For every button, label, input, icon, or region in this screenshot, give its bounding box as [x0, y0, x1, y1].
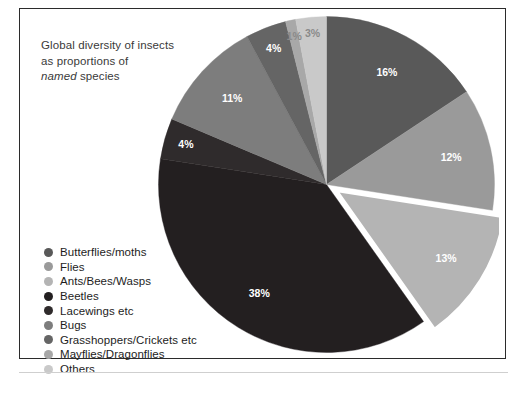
pie-slice-label: 4%: [178, 138, 194, 150]
legend-item-label: Beetles: [60, 290, 99, 302]
legend-item-label: Ants/Bees/Wasps: [60, 275, 151, 287]
pie-slice-label: 1%: [287, 30, 303, 42]
legend-item[interactable]: Beetles: [44, 289, 254, 304]
legend-swatch-icon: [44, 335, 53, 344]
pie-slice-label: 11%: [222, 92, 243, 104]
legend-swatch-icon: [44, 321, 53, 330]
legend-item[interactable]: Grasshoppers/Crickets etc: [44, 333, 254, 348]
legend-swatch-icon: [44, 350, 53, 359]
legend-item-label: Mayflies/Dragonflies: [60, 348, 165, 360]
legend-item[interactable]: Others: [44, 362, 254, 377]
pie-slice-label: 16%: [376, 66, 398, 78]
legend-item-label: Lacewings etc: [60, 305, 134, 317]
legend-swatch-icon: [44, 306, 53, 315]
pie-slice-label: 13%: [436, 252, 458, 264]
caption-line-3-rest: species: [77, 70, 120, 82]
legend-item[interactable]: Lacewings etc: [44, 303, 254, 318]
legend-item-label: Flies: [60, 261, 85, 273]
legend-item-label: Grasshoppers/Crickets etc: [60, 334, 197, 346]
legend-swatch-icon: [44, 292, 53, 301]
legend-swatch-icon: [44, 248, 53, 257]
legend-item[interactable]: Butterflies/moths: [44, 245, 254, 260]
pie-slice-label: 4%: [266, 42, 282, 54]
pie-slice-label: 3%: [305, 27, 321, 39]
legend-item[interactable]: Mayflies/Dragonflies: [44, 347, 254, 362]
pie-slice-label: 12%: [441, 151, 463, 163]
figure-panel: Global diversity of insects as proportio…: [19, 8, 506, 359]
legend-swatch-icon: [44, 262, 53, 271]
legend-item[interactable]: Flies: [44, 260, 254, 275]
legend-item-label: Butterflies/moths: [60, 246, 147, 258]
legend-swatch-icon: [44, 277, 53, 286]
chart-legend: Butterflies/mothsFliesAnts/Bees/WaspsBee…: [44, 245, 254, 376]
legend-item[interactable]: Ants/Bees/Wasps: [44, 274, 254, 289]
legend-item-label: Others: [60, 363, 95, 375]
caption-emphasis-word: named: [41, 70, 77, 82]
legend-item[interactable]: Bugs: [44, 318, 254, 333]
footer-divider: [19, 372, 508, 373]
legend-item-label: Bugs: [60, 319, 86, 331]
caption-line-2: as proportions of: [41, 55, 128, 67]
